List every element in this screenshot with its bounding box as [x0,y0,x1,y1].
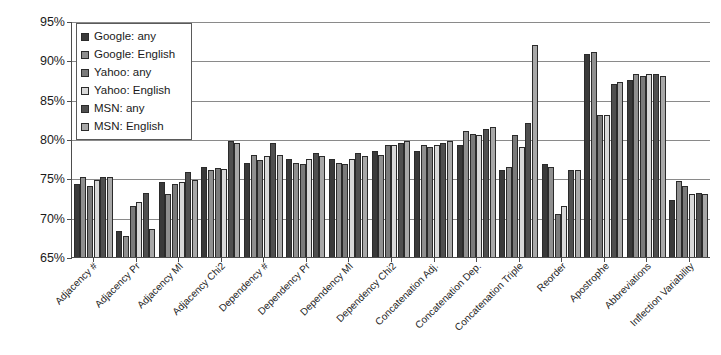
bar-group [540,22,583,257]
bar [107,177,113,257]
bar [463,131,469,257]
bar [483,129,489,257]
bar [306,159,312,257]
bar [519,147,525,257]
bar-chart: 95%90%85%80%75%70%65% Google: anyGoogle:… [0,0,721,355]
bar [633,74,639,257]
bar [676,181,682,257]
bar-group [200,22,243,257]
bar [165,194,171,257]
bar [349,159,355,257]
legend-item[interactable]: MSN: any [81,100,186,118]
bar-group [667,22,710,257]
bar [421,145,427,257]
bar [277,155,283,257]
legend-item[interactable]: MSN: English [81,118,186,136]
bar [293,163,299,257]
bar [136,202,142,257]
y-tick-label: 75% [17,173,65,186]
legend-swatch-icon [81,105,89,113]
y-tick-label: 85% [17,94,65,107]
bar [611,84,617,257]
bar [116,231,122,257]
bar [179,182,185,257]
y-tick-label: 80% [17,134,65,147]
bar [244,163,250,257]
bar-group [455,22,498,257]
bar [470,134,476,258]
bar [362,156,368,257]
bar [434,145,440,257]
y-tick-label: 90% [17,55,65,68]
bar [372,151,378,257]
bar [512,135,518,257]
legend-swatch-icon [81,33,89,41]
x-tick-label: Adjacency # [54,261,100,307]
bar [660,76,666,257]
bar [228,141,234,257]
bar [653,74,659,257]
bar [123,236,129,257]
bar [286,159,292,257]
bar [398,143,404,257]
bar [640,76,646,257]
bar [94,180,100,257]
bar-group [582,22,625,257]
legend-item[interactable]: Yahoo: English [81,82,186,100]
bar [385,145,391,257]
legend-item[interactable]: Google: any [81,28,186,46]
legend-swatch-icon [81,51,89,59]
bar [192,180,198,257]
bar [542,164,548,257]
bar [447,141,453,257]
bar [591,52,597,257]
bar [215,168,221,257]
y-tick-label: 95% [17,16,65,29]
legend-swatch-icon [81,69,89,77]
bar [264,156,270,257]
bar [87,186,93,257]
bar [597,115,603,257]
bar [568,170,574,257]
bar [404,141,410,257]
bar-group [625,22,668,257]
bar [525,123,531,257]
bar [100,177,106,257]
bar [490,127,496,257]
bar [319,156,325,257]
bar [80,177,86,257]
bar [696,193,702,258]
bar-group [327,22,370,257]
bar [159,182,165,257]
bar [476,135,482,257]
bar [313,153,319,257]
bar [208,170,214,257]
bar [440,143,446,257]
bar [575,170,581,257]
bar [414,151,420,257]
bar [172,184,178,257]
bar [669,200,675,257]
bar [185,172,191,257]
bar [391,145,397,257]
legend-swatch-icon [81,87,89,95]
legend-item[interactable]: Yahoo: any [81,64,186,82]
bar [130,206,136,257]
bar [221,169,227,257]
bar [143,193,149,258]
y-tick-label: 65% [17,252,65,265]
bar [342,164,348,257]
bar [74,184,80,257]
legend-item[interactable]: Google: English [81,46,186,64]
bar [355,153,361,257]
bar [682,186,688,257]
bar [457,145,463,257]
bar [702,194,708,257]
bar [149,229,155,257]
legend-item-label: MSN: any [94,103,145,115]
legend-item-label: Yahoo: English [94,85,171,97]
x-tick-label: Apostrophe [567,261,610,304]
y-tick-label: 70% [17,212,65,225]
bar [499,170,505,257]
bar [689,194,695,257]
